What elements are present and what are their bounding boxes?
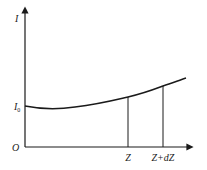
intercept-subscript: 0 [17,107,20,113]
origin-label: O [12,142,19,153]
intercept-label: I0 [13,101,20,113]
marker-label-z: Z [125,152,131,163]
intensity-diagram: I O I0 Z Z+dZ [0,0,207,170]
marker-label-z-dz: Z+dZ [152,152,175,163]
intensity-curve [25,78,186,109]
y-axis-label: I [14,13,19,24]
